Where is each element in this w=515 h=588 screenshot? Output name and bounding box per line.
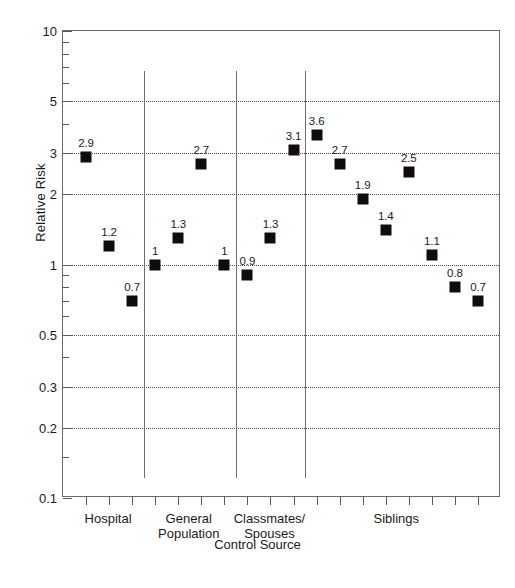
y-tick-mark-minor — [63, 357, 69, 358]
x-tick-mark — [294, 496, 295, 505]
x-tick-mark — [478, 496, 479, 505]
x-tick-mark — [455, 496, 456, 505]
data-point[interactable] — [426, 249, 437, 260]
y-tick-label: 10 — [43, 24, 57, 39]
y-tick-mark-minor — [63, 83, 69, 84]
y-tick-mark-minor — [63, 287, 69, 288]
data-point-label: 2.9 — [78, 137, 94, 149]
data-point[interactable] — [380, 225, 391, 236]
y-tick-label: 0.5 — [39, 327, 57, 342]
y-tick-label: 2 — [50, 187, 57, 202]
data-point[interactable] — [242, 270, 253, 281]
group-separator — [144, 71, 145, 478]
group-separator — [305, 71, 306, 478]
data-point-label: 2.7 — [332, 144, 348, 156]
data-point-label: 0.7 — [124, 281, 140, 293]
y-tick-mark — [63, 153, 72, 154]
gridline — [63, 101, 499, 102]
data-point[interactable] — [173, 232, 184, 243]
data-point[interactable] — [403, 166, 414, 177]
y-tick-label: 1 — [50, 257, 57, 272]
y-tick-mark — [63, 498, 72, 499]
data-point[interactable] — [196, 158, 207, 169]
x-tick-mark — [109, 496, 110, 505]
y-tick-mark-minor — [63, 54, 69, 55]
data-point[interactable] — [288, 144, 299, 155]
gridline — [63, 194, 499, 195]
data-point-label: 1.9 — [355, 179, 371, 191]
y-tick-mark — [63, 194, 72, 195]
gridline — [63, 265, 499, 266]
x-tick-mark — [178, 496, 179, 505]
y-tick-mark-minor — [63, 301, 69, 302]
data-point[interactable] — [311, 129, 322, 140]
x-tick-mark — [363, 496, 364, 505]
data-point[interactable] — [219, 259, 230, 270]
data-point[interactable] — [150, 259, 161, 270]
y-tick-mark — [63, 31, 72, 32]
data-point[interactable] — [265, 232, 276, 243]
y-tick-mark — [63, 387, 72, 388]
data-point-label: 1 — [152, 245, 158, 257]
data-point-label: 3.1 — [286, 130, 302, 142]
data-point[interactable] — [449, 282, 460, 293]
x-tick-mark — [386, 496, 387, 505]
data-point[interactable] — [104, 241, 115, 252]
x-tick-mark — [247, 496, 248, 505]
data-point-label: 1.3 — [263, 218, 279, 230]
y-tick-label: 3 — [50, 146, 57, 161]
data-point[interactable] — [334, 158, 345, 169]
data-point-label: 0.7 — [470, 281, 486, 293]
group-label-line: General — [158, 511, 219, 526]
data-point[interactable] — [81, 151, 92, 162]
x-axis-group-label: Siblings — [374, 511, 420, 526]
y-tick-label: 0.1 — [39, 491, 57, 506]
x-tick-mark — [132, 496, 133, 505]
data-point-label: 1.1 — [424, 235, 440, 247]
data-point[interactable] — [473, 295, 484, 306]
data-point-label: 1.2 — [101, 226, 117, 238]
y-tick-mark-minor — [63, 67, 69, 68]
group-separator — [236, 71, 237, 478]
x-tick-mark — [432, 496, 433, 505]
x-tick-mark — [224, 496, 225, 505]
data-point-label: 3.6 — [309, 115, 325, 127]
plot-area: 1053210.50.30.20.1 2.91.20.711.32.710.91… — [62, 30, 500, 497]
x-axis-title: Control Source — [0, 537, 515, 552]
gridline — [63, 335, 499, 336]
y-tick-mark-minor — [63, 457, 69, 458]
data-point-label: 2.7 — [193, 144, 209, 156]
data-point-label: 1.3 — [170, 218, 186, 230]
y-tick-mark — [63, 428, 72, 429]
x-tick-mark — [201, 496, 202, 505]
group-label-line: Siblings — [374, 511, 420, 526]
y-tick-label: 0.3 — [39, 379, 57, 394]
y-tick-label: 5 — [50, 94, 57, 109]
group-label-line: Hospital — [85, 511, 132, 526]
x-tick-mark — [270, 496, 271, 505]
gridline — [63, 387, 499, 388]
y-tick-mark — [63, 265, 72, 266]
x-tick-mark — [340, 496, 341, 505]
y-tick-mark — [63, 335, 72, 336]
data-point-label: 1 — [221, 245, 227, 257]
x-axis-group-label: Hospital — [85, 511, 132, 526]
y-tick-label: 0.2 — [39, 420, 57, 435]
x-tick-mark — [409, 496, 410, 505]
data-point-label: 0.8 — [447, 267, 463, 279]
x-tick-mark — [86, 496, 87, 505]
x-tick-mark — [155, 496, 156, 505]
y-tick-mark-minor — [63, 275, 69, 276]
y-tick-mark — [63, 101, 72, 102]
data-point[interactable] — [357, 194, 368, 205]
data-point-label: 2.5 — [401, 152, 417, 164]
data-point[interactable] — [127, 295, 138, 306]
data-point-label: 0.9 — [240, 255, 256, 267]
y-axis-title: Relative Risk — [33, 103, 48, 303]
y-tick-mark-minor — [63, 124, 69, 125]
gridline — [63, 428, 499, 429]
y-tick-mark-minor — [63, 42, 69, 43]
group-label-line: Classmates/ — [234, 511, 306, 526]
gridline — [63, 153, 499, 154]
data-point-label: 1.4 — [378, 210, 394, 222]
